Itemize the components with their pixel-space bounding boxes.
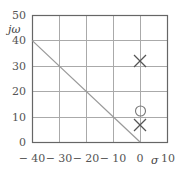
grid — [32, 15, 167, 142]
y-tick: 10 — [12, 111, 26, 124]
plot-frame — [33, 16, 168, 143]
x-tick: 0 — [137, 152, 144, 165]
root-locus-plot: 0 10 20 30 40 50 jω − 40 − 30 − 20 − 10 … — [0, 0, 181, 173]
x-tick: − 20 — [73, 152, 100, 165]
y-tick: 50 — [12, 9, 26, 22]
y-axis-label: jω — [5, 23, 20, 36]
x-tick: 10 — [161, 152, 175, 165]
y-tick: 0 — [19, 136, 26, 149]
y-tick: 30 — [12, 60, 26, 73]
y-tick: 20 — [12, 85, 26, 98]
x-tick: − 40 — [19, 152, 46, 165]
x-tick: − 30 — [46, 152, 73, 165]
x-tick: − 10 — [100, 152, 127, 165]
x-axis-label: σ — [151, 154, 159, 167]
